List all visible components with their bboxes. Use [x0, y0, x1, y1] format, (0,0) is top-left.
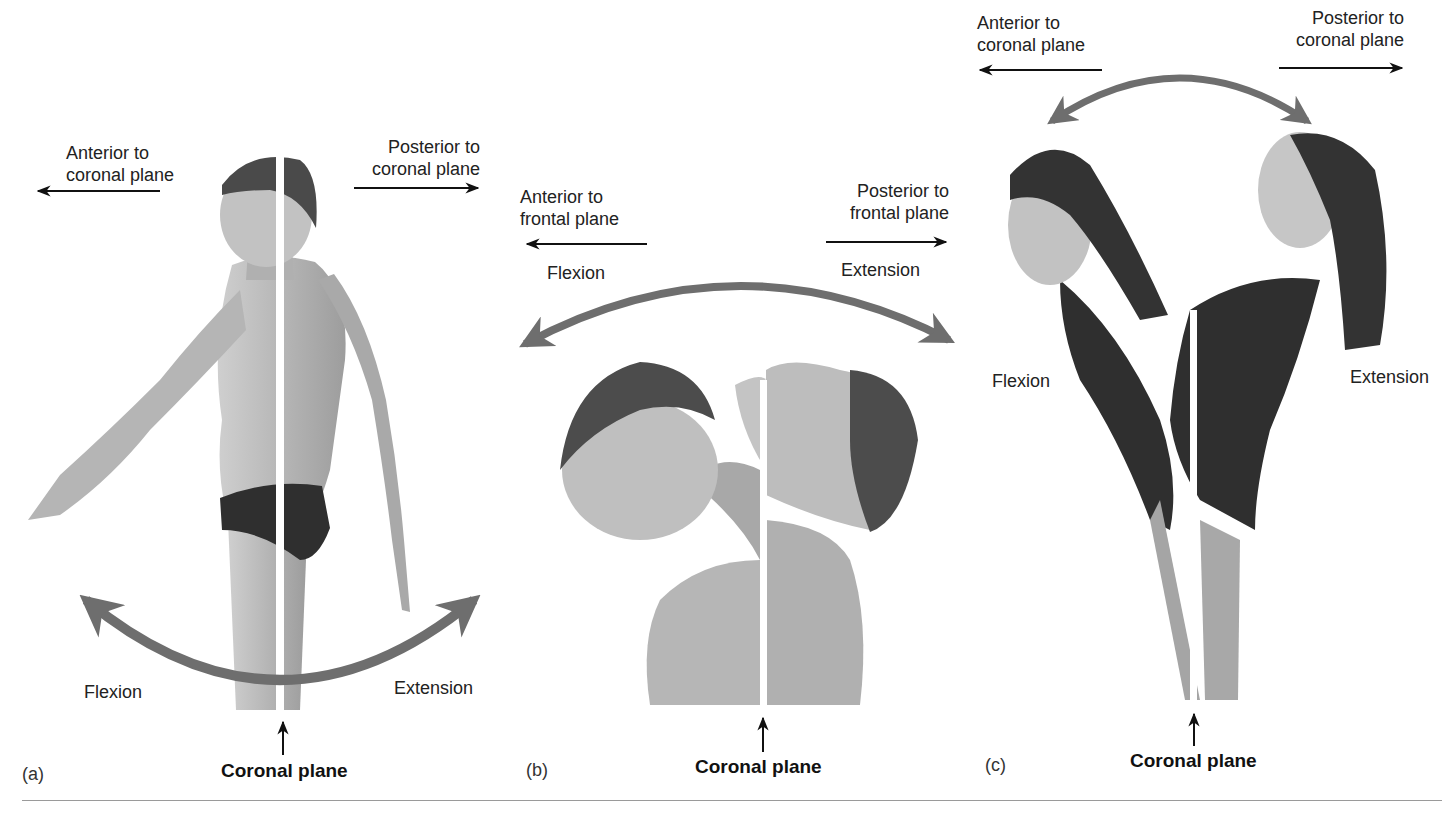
panel-b-figure — [560, 362, 918, 708]
panel-c-posterior-label: Posterior to coronal plane — [1280, 7, 1404, 51]
panel-c-flexion-label: Flexion — [992, 370, 1050, 392]
label-line: coronal plane — [977, 34, 1085, 56]
label-line: frontal plane — [520, 208, 619, 230]
panel-a-coronal-plane-label: Coronal plane — [221, 760, 348, 782]
bottom-divider — [22, 800, 1442, 801]
panel-b-extension-label: Extension — [841, 259, 920, 281]
label-line: coronal plane — [356, 158, 480, 180]
label-line: coronal plane — [66, 164, 174, 186]
label-line: Anterior to — [977, 12, 1085, 34]
label-line: coronal plane — [1280, 29, 1404, 51]
label-line: Posterior to — [826, 180, 949, 202]
panel-a-anterior-label: Anterior to coronal plane — [66, 142, 174, 186]
label-line: Posterior to — [1280, 7, 1404, 29]
panel-a-extension-label: Extension — [394, 677, 473, 699]
panel-b-anterior-label: Anterior to frontal plane — [520, 186, 619, 230]
panel-a-flexion-label: Flexion — [84, 681, 142, 703]
panel-b-flexion-label: Flexion — [547, 262, 605, 284]
panel-c-extension-label: Extension — [1350, 366, 1429, 388]
label-line: Posterior to — [356, 136, 480, 158]
panel-c-figure — [1008, 132, 1386, 700]
label-line: Anterior to — [520, 186, 619, 208]
panel-a-posterior-label: Posterior to coronal plane — [356, 136, 480, 180]
panel-c-coronal-plane-label: Coronal plane — [1130, 750, 1257, 772]
figure-artwork — [0, 0, 1452, 814]
panel-b-id: (b) — [526, 760, 548, 781]
panel-c-id: (c) — [985, 755, 1006, 776]
panel-c-anterior-label: Anterior to coronal plane — [977, 12, 1085, 56]
panel-a-figure — [28, 155, 410, 712]
label-line: Anterior to — [66, 142, 174, 164]
panel-a-id: (a) — [22, 764, 44, 785]
panel-b-posterior-label: Posterior to frontal plane — [826, 180, 949, 224]
panel-b-coronal-plane-label: Coronal plane — [695, 756, 822, 778]
label-line: frontal plane — [826, 202, 949, 224]
